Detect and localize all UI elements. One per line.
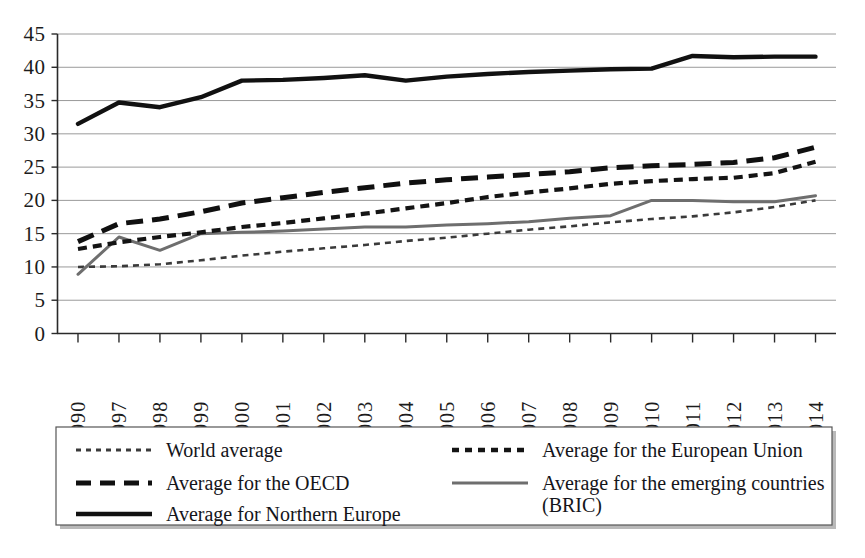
y-axis-tick-label: 10	[24, 255, 46, 279]
legend-label-bric-line2: (BRIC)	[542, 494, 602, 517]
legend-label-northern-europe: Average for Northern Europe	[166, 503, 401, 526]
legend: World average Average for the OECD Avera…	[56, 427, 836, 529]
legend-label-european-union: Average for the European Union	[542, 439, 803, 462]
y-axis-tick-label: 35	[24, 89, 46, 113]
y-axis-tick-label: 0	[35, 322, 46, 346]
y-axis-tick-label: 30	[24, 122, 46, 146]
legend-label-world-average: World average	[166, 439, 283, 462]
chart-figure: 051015202530354045 199019971998199920002…	[0, 0, 865, 558]
legend-label-oecd: Average for the OECD	[166, 472, 349, 495]
y-axis-tick-label: 45	[24, 22, 46, 46]
y-axis-tick-label: 5	[35, 288, 46, 312]
y-axis-tick-label: 20	[24, 188, 46, 212]
y-axis-tick-label: 40	[24, 55, 46, 79]
y-axis-tick-label: 15	[24, 222, 46, 246]
y-axis-tick-label: 25	[24, 155, 46, 179]
line-chart-svg: 051015202530354045 199019971998199920002…	[0, 0, 865, 558]
legend-label-bric: Average for the emerging countries	[542, 472, 825, 495]
